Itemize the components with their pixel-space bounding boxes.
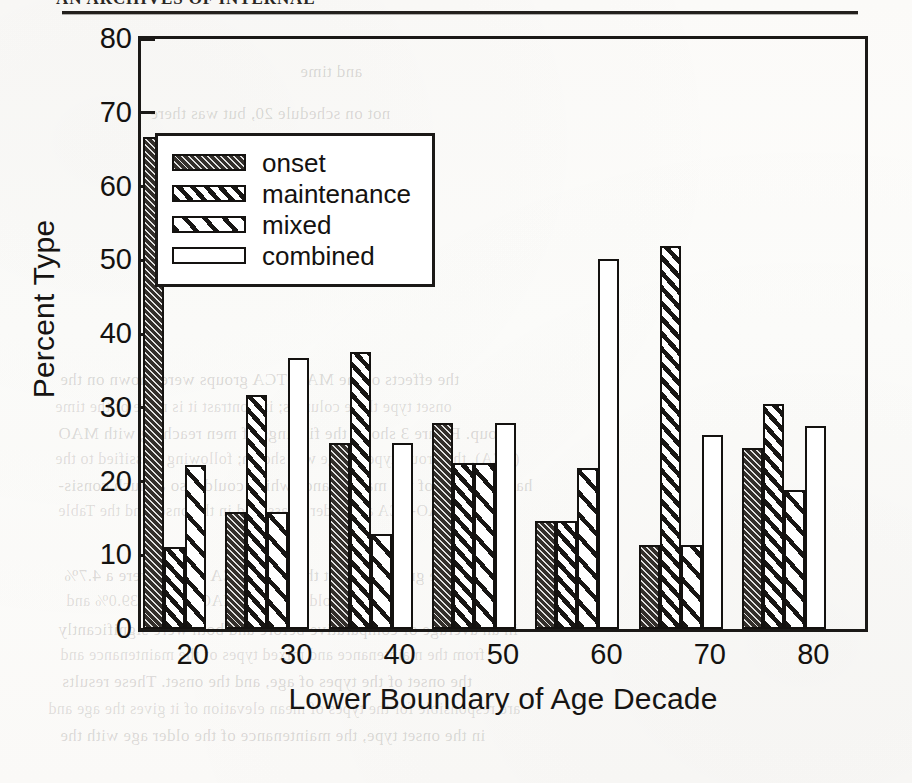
running-head-rule [62,11,858,14]
x-axis-tick-label: 80 [768,638,858,670]
chart-legend: onsetmaintenancemixedcombined [155,133,435,287]
y-axis-tick-label: 80 [54,24,132,53]
legend-label: onset [262,150,326,176]
legend-swatch-solid-white [172,247,246,264]
bar-maintenance-60 [556,521,577,629]
legend-label: combined [262,243,375,269]
bar-onset-80 [742,448,763,629]
bar-mixed-50 [474,463,495,629]
y-axis-tick-label: 0 [54,614,132,643]
y-axis-tick-labels: 01020304050607080 [54,18,132,658]
y-axis-tick-label: 30 [54,393,132,422]
bar-maintenance-20 [164,547,185,629]
y-axis-tick-label: 60 [54,172,132,201]
x-axis-tick-label: 30 [251,638,341,670]
x-axis-tick-label: 70 [665,638,755,670]
bar-mixed-40 [371,534,392,629]
x-axis-tick-label: 50 [458,638,548,670]
bar-maintenance-50 [453,463,474,629]
bar-mixed-80 [784,490,805,629]
legend-row-maintenance: maintenance [172,178,418,209]
bar-mixed-20 [185,465,206,629]
y-axis-tick-label: 70 [54,98,132,127]
bar-combined-70 [702,435,723,629]
x-axis-tick-label: 60 [561,638,651,670]
bar-maintenance-40 [350,352,371,629]
y-axis-tick-label: 20 [54,467,132,496]
x-axis-tick-label: 20 [148,638,238,670]
y-axis-tick-label: 50 [54,245,132,274]
legend-row-onset: onset [172,147,418,178]
legend-label: mixed [262,212,331,238]
bar-combined-40 [392,443,413,629]
legend-swatch-wide-diagonal-stripe [172,216,246,233]
legend-row-mixed: mixed [172,209,418,240]
legend-row-combined: combined [172,240,418,271]
bar-combined-60 [598,259,619,629]
bar-onset-30 [225,512,246,629]
x-axis-title: Lower Boundary of Age Decade [138,682,868,716]
bar-chart-figure: Percent Type 01020304050607080 onsetmain… [0,18,912,783]
bar-onset-40 [329,443,350,629]
bar-onset-70 [639,545,660,629]
bar-combined-50 [495,423,516,630]
bar-combined-80 [805,426,826,629]
y-axis-tick-label: 40 [54,319,132,348]
bar-mixed-70 [681,545,702,629]
running-head-text: AN ARCHIVES OF INTERNAL [56,0,316,9]
legend-swatch-dense-diagonal-stripe [172,185,246,202]
bar-onset-50 [432,423,453,630]
bar-maintenance-30 [246,395,267,629]
bar-combined-30 [288,358,309,629]
bar-onset-60 [535,521,556,629]
x-axis-tick-labels: 20304050607080 [138,638,868,680]
legend-label: maintenance [262,181,411,207]
y-axis-tick-mark [138,111,155,114]
bar-maintenance-80 [763,404,784,629]
y-axis-tick-mark [138,38,155,41]
legend-swatch-dark-fine-hatch [172,154,246,171]
y-axis-tick-label: 10 [54,540,132,569]
bar-mixed-60 [577,468,598,629]
bar-maintenance-70 [660,246,681,630]
plot-area [138,36,868,632]
plot-inner [141,39,865,629]
bar-mixed-30 [267,512,288,629]
x-axis-tick-label: 40 [355,638,445,670]
